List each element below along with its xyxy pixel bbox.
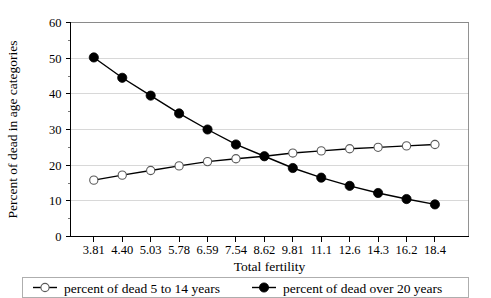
- data-point-s1-0: [90, 176, 98, 184]
- legend-label-1: percent of dead 5 to 14 years: [64, 281, 220, 296]
- data-point-s2-10: [374, 188, 383, 197]
- legend-label-2: percent of dead over 20 years: [283, 281, 442, 296]
- x-tick-label-4: 6.59: [197, 243, 219, 257]
- data-point-s1-3: [175, 162, 183, 170]
- data-point-s1-7: [289, 149, 297, 157]
- y-tick-label-20: 20: [49, 159, 62, 173]
- data-point-s2-8: [317, 173, 326, 182]
- x-tick-label-0: 3.81: [83, 243, 105, 257]
- x-tick-label-6: 8.62: [253, 243, 275, 257]
- x-tick-label-11: 16.2: [396, 243, 418, 257]
- data-point-s1-12: [431, 140, 439, 148]
- chart-container: 0102030405060 3.814.405.035.786.597.548.…: [0, 0, 491, 298]
- data-point-s1-2: [147, 166, 155, 174]
- x-tick-label-8: 11.1: [311, 243, 332, 257]
- x-tick-label-7: 9.81: [282, 243, 304, 257]
- data-point-s2-2: [146, 91, 155, 100]
- y-tick-label-30: 30: [49, 123, 62, 137]
- data-point-s2-0: [89, 53, 98, 62]
- data-point-s1-8: [317, 147, 325, 155]
- data-point-s2-3: [175, 109, 184, 118]
- data-point-s1-5: [232, 155, 240, 163]
- y-axis-title: Percent of dead in age categories: [5, 40, 20, 218]
- data-point-s2-12: [430, 200, 439, 209]
- data-point-s2-6: [260, 152, 269, 161]
- data-point-s2-1: [118, 73, 127, 82]
- x-tick-label-3: 5.78: [168, 243, 190, 257]
- y-tick-label-40: 40: [49, 87, 62, 101]
- x-tick-label-12: 18.4: [424, 243, 447, 257]
- x-axis-title: Total fertility: [234, 259, 306, 274]
- x-tick-label-1: 4.40: [111, 243, 133, 257]
- data-point-s2-4: [203, 125, 212, 134]
- data-point-s2-9: [345, 181, 354, 190]
- x-tick-label-5: 7.54: [225, 243, 248, 257]
- data-point-s1-1: [118, 171, 126, 179]
- data-point-s1-10: [374, 143, 382, 151]
- legend-marker-open-circle: [41, 283, 49, 291]
- data-point-s2-7: [288, 163, 297, 172]
- data-point-s1-11: [402, 142, 410, 150]
- y-tick-label-50: 50: [49, 52, 62, 66]
- data-point-s1-9: [346, 145, 354, 153]
- data-point-s1-4: [203, 158, 211, 166]
- x-tick-label-10: 14.3: [367, 243, 389, 257]
- data-point-s2-5: [231, 140, 240, 149]
- legend-marker-filled-circle: [259, 283, 268, 292]
- y-tick-label-10: 10: [49, 194, 62, 208]
- x-tick-label-2: 5.03: [140, 243, 162, 257]
- x-tick-label-9: 12.6: [339, 243, 361, 257]
- fertility-mortality-line-chart: 0102030405060 3.814.405.035.786.597.548.…: [0, 0, 491, 298]
- y-tick-label-60: 60: [49, 16, 62, 30]
- y-tick-label-0: 0: [55, 230, 61, 244]
- data-point-s2-11: [402, 194, 411, 203]
